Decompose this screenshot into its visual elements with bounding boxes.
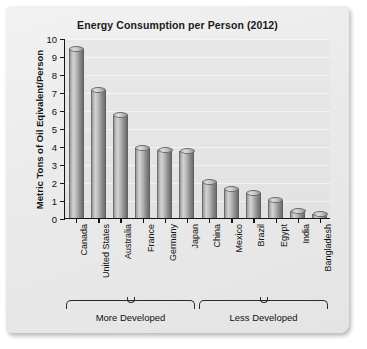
bracket-line [66,300,195,309]
y-axis-title: Metric Tons of Oil Eqivalent/Person [34,35,45,225]
bar-slot [132,39,154,218]
chart-card: Energy Consumption per Person (2012) Met… [6,6,349,333]
group-label: Less Developed [199,312,328,323]
bar-slot [220,39,242,218]
bar[interactable] [268,200,283,218]
x-axis-label: Bangladesh [323,224,333,296]
bar[interactable] [113,115,128,218]
bar[interactable] [224,189,239,218]
bar[interactable] [202,182,217,218]
bar-series [65,39,330,218]
y-tick-mark [60,219,65,220]
bar[interactable] [179,151,194,218]
bar-slot [65,39,87,218]
bar-slot [176,39,198,218]
x-tick-mark [209,218,210,223]
bar-cap [224,186,239,192]
chart-title: Energy Consumption per Person (2012) [6,19,349,31]
bar[interactable] [135,148,150,218]
x-axis-label: Egypt [279,224,289,296]
bar-slot [265,39,287,218]
bar[interactable] [69,49,84,218]
bar[interactable] [290,211,305,218]
bar-slot [242,39,264,218]
x-tick-mark [165,218,166,223]
x-tick-mark [231,218,232,223]
y-tick-label: 1 [52,196,57,207]
x-axis-labels: CanadaUnited StatesAustraliaFranceGerman… [64,224,330,296]
bar-slot [109,39,131,218]
bar-cap [69,46,84,52]
bracket-pointer [127,297,135,303]
x-axis-label: India [301,224,311,296]
y-tick-label: 6 [52,106,57,117]
y-tick-label: 3 [52,160,57,171]
bar-cap [91,87,106,93]
bar[interactable] [157,150,172,218]
y-tick-label: 7 [52,88,57,99]
x-tick-mark [120,218,121,223]
bracket-pointer [260,297,268,303]
x-tick-mark [98,218,99,223]
bar-slot [87,39,109,218]
x-tick-mark [187,218,188,223]
x-axis-label: Japan [190,224,200,296]
bar-slot [309,39,331,218]
y-tick-label: 5 [52,124,57,135]
bar-cap [180,148,195,154]
plot-area: 109876543210 [64,39,330,219]
x-tick-mark [143,218,144,223]
bar-slot [154,39,176,218]
bar-cap [158,147,173,153]
x-axis-label: Germany [168,224,178,296]
bar-cap [313,211,328,217]
bar-slot [198,39,220,218]
bar-slot [287,39,309,218]
bar-cap [113,112,128,118]
y-tick-label: 8 [52,70,57,81]
x-axis-label: Brazil [256,224,266,296]
bar-cap [202,179,217,185]
group-brackets: More DevelopedLess Developed [64,300,330,332]
y-tick-label: 0 [52,214,57,225]
y-tick-label: 9 [52,52,57,63]
x-axis-label: Canada [79,224,89,296]
x-axis-label: Australia [123,224,133,296]
bar-cap [246,190,261,196]
x-tick-mark [320,218,321,223]
bar-cap [268,197,283,203]
x-tick-mark [276,218,277,223]
x-tick-mark [76,218,77,223]
x-axis-label: United States [101,224,111,296]
group-label: More Developed [66,312,195,323]
y-tick-label: 10 [46,34,57,45]
bar-cap [135,145,150,151]
y-tick-label: 4 [52,142,57,153]
x-axis-label: China [212,224,222,296]
bar[interactable] [91,90,106,218]
x-tick-mark [253,218,254,223]
y-tick-label: 2 [52,178,57,189]
bar-cap [291,208,306,214]
bar[interactable] [246,193,261,218]
x-axis-label: Mexico [234,224,244,296]
x-axis-label: France [146,224,156,296]
x-tick-mark [298,218,299,223]
bracket-line [199,300,328,309]
